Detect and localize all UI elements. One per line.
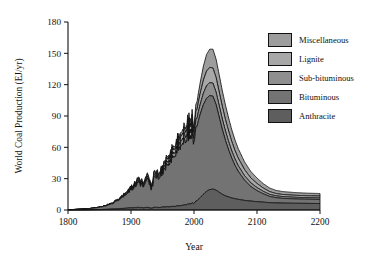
legend-label: Anthracite [299, 111, 335, 121]
legend-label: Bituminous [299, 92, 339, 102]
legend-swatch-icon [268, 52, 292, 66]
legend-swatch-icon [268, 109, 292, 123]
chart-figure: 030609012015018018001900200021002200 Wor… [0, 0, 382, 259]
y-tick-label: 150 [47, 49, 61, 59]
legend-item-sub-bituminous[interactable]: Sub-bituminous [268, 68, 382, 87]
x-axis-title: Year [185, 241, 203, 252]
legend-swatch-icon [268, 33, 292, 47]
legend-swatch-icon [268, 90, 292, 104]
legend-item-miscellaneous[interactable]: Miscellaneous [268, 30, 382, 49]
legend-label: Miscellaneous [299, 35, 349, 45]
y-axis-title: World Coal Production (EJ/yr) [14, 58, 25, 173]
legend-item-lignite[interactable]: Lignite [268, 49, 382, 68]
y-tick-label: 0 [56, 205, 61, 215]
x-tick-label: 1800 [59, 217, 78, 227]
y-tick-label: 120 [47, 80, 61, 90]
y-tick-label: 90 [52, 111, 62, 121]
legend-item-anthracite[interactable]: Anthracite [268, 106, 382, 125]
legend-label: Sub-bituminous [299, 73, 354, 83]
chart-legend: MiscellaneousLigniteSub-bituminousBitumi… [268, 30, 382, 125]
y-tick-label: 30 [52, 174, 62, 184]
legend-label: Lignite [299, 54, 324, 64]
x-tick-label: 1900 [122, 217, 141, 227]
y-tick-label: 60 [52, 143, 62, 153]
y-tick-label: 180 [47, 17, 61, 27]
x-tick-label: 2200 [311, 217, 330, 227]
legend-item-bituminous[interactable]: Bituminous [268, 87, 382, 106]
x-tick-label: 2000 [185, 217, 204, 227]
legend-swatch-icon [268, 71, 292, 85]
x-tick-label: 2100 [248, 217, 267, 227]
